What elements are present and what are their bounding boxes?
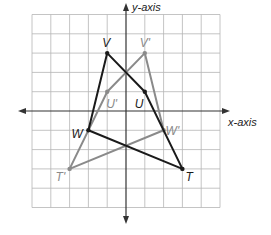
vertex-label: T' [56,170,66,184]
vertex-point [143,90,147,94]
vertex-label: W' [166,124,180,138]
y-axis-label: y-axis [131,1,161,13]
vertex-point [143,51,147,55]
x-axis-right-arrow-icon [222,108,230,114]
vertex-point [86,128,90,132]
vertex-label: V' [140,36,151,50]
y-axis-down-arrow-icon [123,216,129,224]
vertex-label: W [71,127,84,141]
vertex-point [105,51,109,55]
axes: y-axis x-axis [18,1,257,224]
vertex-labels: VUTWV'U'T'W' [56,36,195,184]
x-axis-left-arrow-icon [18,108,26,114]
vertex-label: U' [106,97,118,111]
vertex-point [67,167,71,171]
vertex-label: U [135,97,144,111]
coordinate-plane: y-axis x-axis VUTWV'U'T'W' [0,0,271,235]
y-axis-up-arrow-icon [123,3,129,11]
x-axis-label: x-axis [227,116,257,128]
vertex-label: T [185,170,194,184]
vertex-point [180,167,184,171]
vertex-label: V [102,36,111,50]
vertex-point [105,90,109,94]
